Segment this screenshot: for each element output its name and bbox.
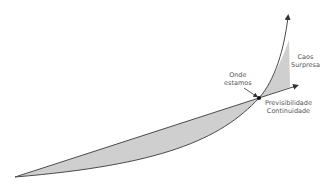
where-we-are-line2: estamos — [224, 80, 252, 88]
where-we-are-label: Onde estamos — [224, 72, 252, 87]
linear-trend-line — [15, 86, 296, 177]
predictability-label: Previsibilidade Continuidade — [265, 100, 312, 115]
predictability-line2: Continuidade — [265, 108, 312, 116]
chaos-label-line2: Surpresa — [291, 62, 320, 70]
intersection-dot — [257, 96, 261, 100]
pointer-arrow — [244, 88, 256, 96]
chaos-label: Caos Surpresa — [291, 54, 320, 69]
curve-diagram — [0, 0, 325, 189]
